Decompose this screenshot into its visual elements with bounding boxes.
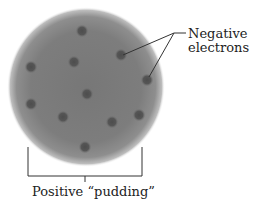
- positive-pudding-label: Positive “pudding”: [32, 185, 155, 199]
- electron-dot: [79, 141, 92, 154]
- electron-dot: [76, 25, 89, 38]
- electron-dot: [25, 61, 38, 74]
- electron-dot: [141, 74, 154, 87]
- electron-dot: [68, 56, 81, 69]
- electron-dot: [57, 111, 70, 124]
- electron-dot: [81, 88, 94, 101]
- electron-dot: [25, 98, 38, 111]
- electrons-label-line1: Negative: [188, 27, 249, 41]
- electron-dot: [133, 109, 146, 122]
- plum-pudding-diagram: Negative electrons Positive “pudding”: [0, 0, 254, 208]
- electrons-label-line2: electrons: [188, 41, 249, 55]
- electron-dot: [106, 116, 119, 129]
- negative-electrons-label: Negative electrons: [188, 27, 249, 55]
- electron-dot: [115, 49, 128, 62]
